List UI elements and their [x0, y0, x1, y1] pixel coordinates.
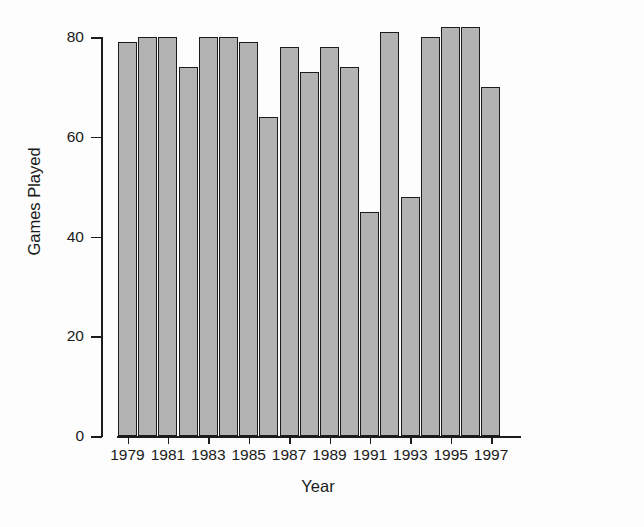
y-tick-label-60: 60: [44, 129, 84, 145]
x-tick-1983: [208, 437, 210, 444]
x-axis-title: Year: [118, 477, 518, 496]
bar: [199, 37, 218, 436]
bar: [481, 87, 500, 436]
x-tick-1987: [289, 437, 291, 444]
x-tick-1991: [370, 437, 372, 444]
plot-area: [118, 20, 518, 436]
bar: [421, 37, 440, 436]
y-tick-0: [91, 436, 102, 438]
bar: [219, 37, 238, 436]
x-axis-line: [117, 436, 521, 438]
bar: [138, 37, 157, 436]
bar-series: [118, 20, 518, 436]
bar: [259, 117, 278, 436]
x-tick-1979: [128, 437, 130, 444]
bar: [158, 37, 177, 436]
bar: [401, 197, 420, 436]
y-tick-20: [91, 336, 102, 338]
x-tick-1989: [330, 437, 332, 444]
bar: [118, 42, 137, 436]
x-tick-1993: [410, 437, 412, 444]
x-tick-1981: [168, 437, 170, 444]
bar: [461, 27, 480, 436]
bar-chart-figure: 80 60 40 20 0 19791981198319851987198919…: [0, 0, 644, 527]
y-tick-label-80: 80: [44, 29, 84, 45]
y-axis-title: Games Played: [25, 102, 44, 302]
bar: [360, 212, 379, 436]
y-tick-80: [91, 37, 102, 39]
bar: [280, 47, 299, 436]
y-tick-label-40: 40: [44, 229, 84, 245]
bar: [239, 42, 258, 436]
y-tick-label-0: 0: [44, 428, 84, 444]
x-tick-1997: [491, 437, 493, 444]
bar: [300, 72, 319, 436]
x-tick-1985: [249, 437, 251, 444]
x-tick-label-1997: 1997: [461, 447, 521, 463]
bar: [320, 47, 339, 436]
x-tick-1995: [451, 437, 453, 444]
bar: [441, 27, 460, 436]
bar: [179, 67, 198, 436]
bar: [380, 32, 399, 436]
bar: [340, 67, 359, 436]
y-tick-60: [91, 137, 102, 139]
y-tick-40: [91, 237, 102, 239]
y-tick-label-20: 20: [44, 328, 84, 344]
